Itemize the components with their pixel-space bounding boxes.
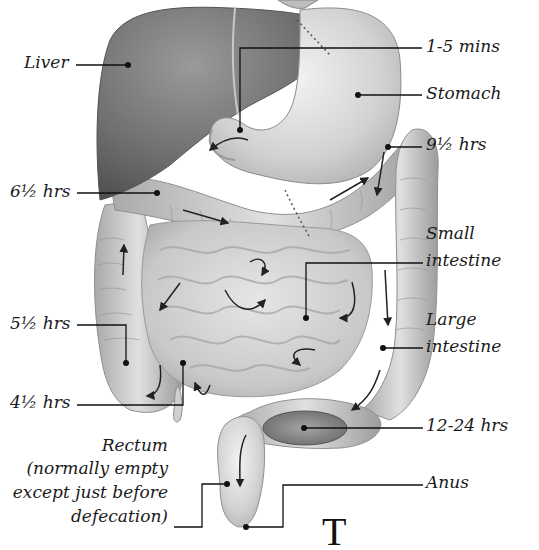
label-rectum-line2: (normally empty [26,458,168,479]
partial-heading-text: T [322,512,346,550]
digestive-diagram: Liver 1-5 mins Stomach 9½ hrs 6½ hrs Sma… [0,0,539,550]
label-rectum-line1: Rectum [102,435,168,456]
label-stomach: Stomach [426,83,501,104]
small-intestine-shape [142,221,373,397]
label-rectum-line4: defecation) [71,506,168,527]
label-9-half-hrs: 9½ hrs [426,134,487,155]
label-anus: Anus [426,472,469,493]
label-small-intestine-line2: intestine [426,250,501,271]
label-large-intestine-line1: Large [426,309,477,330]
label-4-half-hrs: 4½ hrs [10,392,71,413]
label-5-half-hrs: 5½ hrs [10,313,71,334]
label-large-intestine-line2: intestine [426,336,501,357]
label-small-intestine-line1: Small [426,223,475,244]
label-6-half-hrs: 6½ hrs [10,181,71,202]
label-rectum-line3: except just before [13,482,168,503]
label-1-5-mins: 1-5 mins [426,36,500,57]
label-liver: Liver [24,52,69,73]
label-12-24-hrs: 12-24 hrs [426,415,508,436]
